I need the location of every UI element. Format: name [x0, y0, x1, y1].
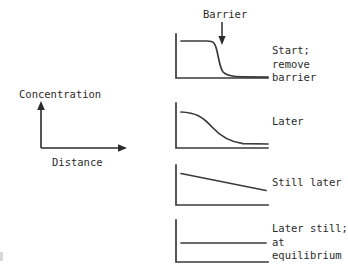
legend-axes	[37, 101, 127, 152]
stage-axes-1	[176, 103, 268, 148]
down-arrow-icon	[218, 36, 225, 45]
stage-label-later: Later	[272, 115, 304, 129]
barrier-label: Barrier	[203, 8, 247, 22]
stage-curve-2	[181, 174, 266, 191]
stage-panel-equilibrium	[176, 220, 268, 262]
stage-axes-3	[176, 220, 268, 262]
diffusion-diagram: Barrier Start; remove barrier Later Stil…	[0, 0, 348, 273]
stage-panel-still-later	[176, 165, 268, 205]
legend-y-axis-label: Concentration	[19, 88, 101, 102]
right-arrow-icon	[118, 144, 127, 152]
scan-edge-artifact	[0, 252, 3, 261]
barrier-arrow	[218, 22, 225, 45]
stage-label-equilibrium: Later still; at equilibrium	[272, 222, 348, 263]
stage-panel-later	[176, 103, 268, 148]
stage-label-still-later: Still later	[272, 176, 342, 190]
stage-axes-2	[176, 165, 268, 205]
stage-label-start: Start; remove barrier	[272, 44, 316, 85]
up-arrow-icon	[37, 101, 45, 110]
stage-curve-1	[181, 112, 268, 144]
stage-curve-0	[181, 41, 268, 77]
legend-x-axis-label: Distance	[52, 156, 103, 170]
